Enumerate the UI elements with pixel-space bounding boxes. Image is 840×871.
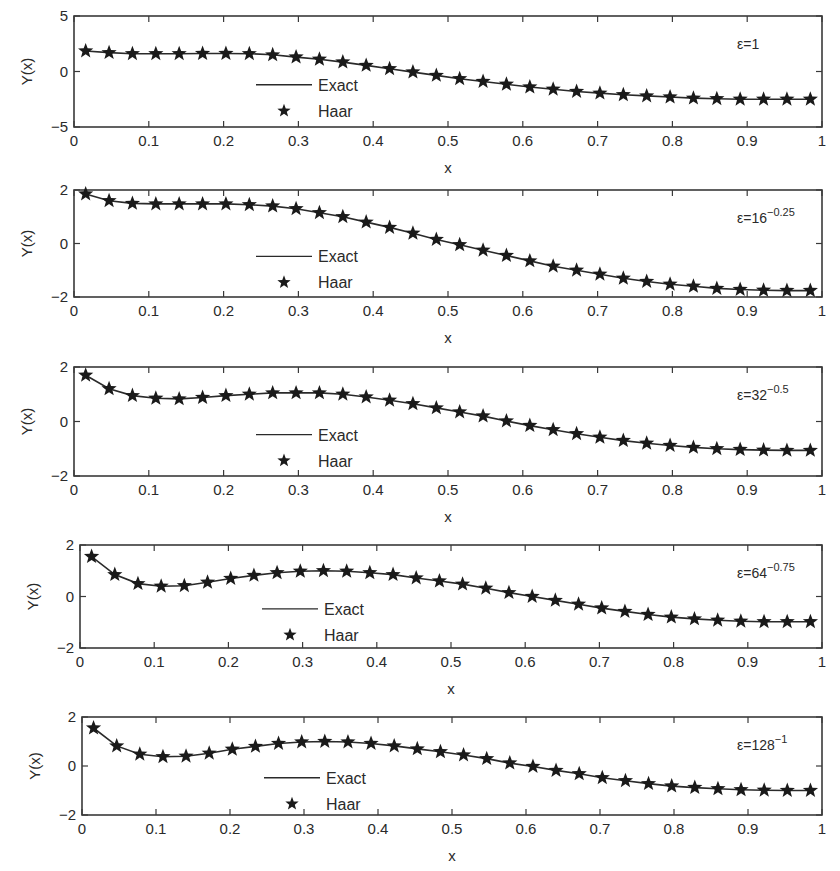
star-marker xyxy=(780,614,795,628)
star-marker xyxy=(410,741,425,755)
star-marker xyxy=(154,578,169,592)
star-marker xyxy=(340,734,355,748)
x-tick-label: 0.9 xyxy=(737,132,758,149)
star-marker xyxy=(709,91,724,105)
subplot-2: 00.10.20.30.40.50.60.70.80.91−202Y(x)xEx… xyxy=(18,181,826,346)
legend-star-icon xyxy=(283,628,296,641)
star-marker xyxy=(223,570,238,584)
x-tick-label: 0.8 xyxy=(662,132,683,149)
star-marker xyxy=(546,258,561,272)
y-tick-label: −2 xyxy=(51,288,68,305)
star-marker xyxy=(387,738,402,752)
star-marker xyxy=(475,242,490,256)
star-marker xyxy=(409,570,424,584)
star-marker xyxy=(569,262,584,276)
x-tick-label: 0.6 xyxy=(515,653,536,670)
y-tick-label: 2 xyxy=(60,181,68,198)
x-tick-label: 0.9 xyxy=(737,653,758,670)
star-marker xyxy=(756,442,771,456)
x-tick-label: 0.4 xyxy=(363,132,384,149)
star-marker xyxy=(571,596,586,610)
epsilon-annotation: ε=128−1 xyxy=(737,733,787,753)
x-axis-label: x xyxy=(444,159,452,176)
star-marker xyxy=(452,404,467,418)
star-marker xyxy=(709,280,724,294)
star-marker xyxy=(757,782,772,796)
star-marker xyxy=(382,219,397,233)
star-marker xyxy=(548,592,563,606)
x-tick-label: 0.1 xyxy=(138,132,159,149)
x-tick-label: 0.5 xyxy=(441,653,462,670)
star-marker xyxy=(499,413,514,427)
star-marker xyxy=(803,283,818,297)
star-marker xyxy=(172,46,187,60)
x-tick-label: 0.6 xyxy=(512,132,533,149)
star-marker xyxy=(594,600,609,614)
star-marker xyxy=(78,43,93,57)
x-tick-label: 0.3 xyxy=(288,302,309,319)
star-marker xyxy=(294,734,309,748)
x-tick-label: 0.4 xyxy=(368,820,389,837)
star-marker xyxy=(312,205,327,219)
x-tick-label: 0.1 xyxy=(144,653,165,670)
star-marker xyxy=(177,578,192,592)
star-marker xyxy=(432,573,447,587)
star-marker xyxy=(218,46,233,60)
star-marker xyxy=(195,390,210,404)
x-tick-label: 0.2 xyxy=(213,481,234,498)
star-marker xyxy=(779,442,794,456)
star-marker xyxy=(148,390,163,404)
star-marker xyxy=(733,782,748,796)
star-marker xyxy=(546,81,561,95)
legend-label-exact: Exact xyxy=(318,427,359,444)
exact-solution-line xyxy=(86,51,811,99)
star-marker xyxy=(525,758,540,772)
star-marker xyxy=(405,225,420,239)
epsilon-annotation: ε=32−0.5 xyxy=(737,383,789,403)
legend: ExactHaar xyxy=(264,770,367,813)
legend-star-icon xyxy=(277,454,290,467)
y-tick-label: 2 xyxy=(60,358,68,375)
star-marker xyxy=(546,422,561,436)
x-tick-label: 0.9 xyxy=(737,481,758,498)
y-tick-label: 0 xyxy=(60,235,68,252)
star-marker xyxy=(218,196,233,210)
x-tick-label: 0.9 xyxy=(737,302,758,319)
x-tick-label: 0.9 xyxy=(738,820,759,837)
star-marker xyxy=(639,88,654,102)
star-marker xyxy=(452,71,467,85)
x-tick-label: 0.3 xyxy=(288,132,309,149)
star-marker xyxy=(148,46,163,60)
star-marker xyxy=(429,400,444,414)
legend-label-haar: Haar xyxy=(318,103,353,120)
star-marker xyxy=(733,91,748,105)
x-axis-label: x xyxy=(447,680,455,697)
star-marker xyxy=(548,762,563,776)
star-marker xyxy=(429,67,444,81)
star-marker xyxy=(195,196,210,210)
star-marker xyxy=(756,614,771,628)
star-marker xyxy=(385,567,400,581)
star-marker xyxy=(125,388,140,402)
legend-label-haar: Haar xyxy=(326,796,361,813)
star-marker xyxy=(686,439,701,453)
legend-label-haar: Haar xyxy=(318,274,353,291)
star-marker xyxy=(662,276,677,290)
star-marker xyxy=(339,563,354,577)
star-marker xyxy=(687,611,702,625)
subplot-5: 00.10.20.30.40.50.60.70.80.91−202Y(x)xEx… xyxy=(26,708,826,864)
legend-label-exact: Exact xyxy=(318,248,359,265)
star-marker xyxy=(502,755,517,769)
y-tick-label: 2 xyxy=(66,536,74,553)
star-marker xyxy=(664,778,679,792)
star-marker xyxy=(148,196,163,210)
star-marker xyxy=(780,783,795,797)
y-tick-label: 0 xyxy=(66,588,74,605)
star-marker xyxy=(616,433,631,447)
haar-markers xyxy=(86,720,818,797)
star-marker xyxy=(312,51,327,65)
star-marker xyxy=(662,437,677,451)
star-marker xyxy=(107,567,122,581)
epsilon-annotation: ε=64−0.75 xyxy=(737,561,795,581)
subplot-4: 00.10.20.30.40.50.60.70.80.91−202Y(x)xEx… xyxy=(24,536,826,697)
